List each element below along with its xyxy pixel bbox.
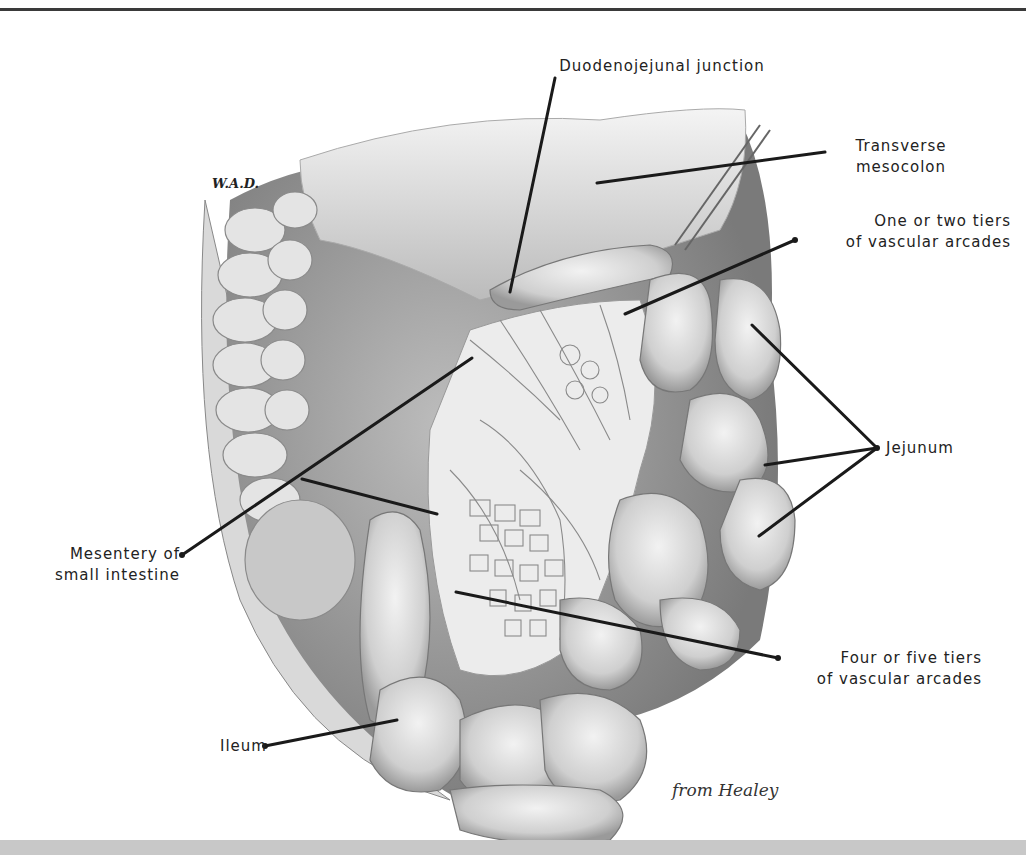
label-one-two-line1: One or two tiers bbox=[795, 211, 1011, 232]
label-mesentery-line1: Mesentery of bbox=[40, 544, 180, 565]
label-mesentery-of-small-intestine: Mesentery of small intestine bbox=[40, 544, 180, 586]
label-duodenojejunal-junction: Duodenojejunal junction bbox=[537, 56, 787, 77]
label-transverse-mesocolon: Transverse mesocolon bbox=[836, 136, 966, 178]
anatomical-illustration bbox=[0, 0, 1026, 855]
leader-jejunum-2 bbox=[765, 448, 877, 465]
label-one-two-line2: of vascular arcades bbox=[795, 232, 1011, 253]
label-four-five-line1: Four or five tiers bbox=[770, 648, 982, 669]
label-four-or-five-tiers: Four or five tiers of vascular arcades bbox=[770, 648, 982, 690]
label-transverse-line2: mesocolon bbox=[836, 157, 966, 178]
label-ileum: Ileum bbox=[220, 736, 267, 757]
label-mesentery-line2: small intestine bbox=[40, 565, 180, 586]
label-jejunum: Jejunum bbox=[886, 438, 954, 459]
artist-initials: W.A.D. bbox=[212, 176, 259, 191]
label-one-or-two-tiers: One or two tiers of vascular arcades bbox=[795, 211, 1011, 253]
bottom-band bbox=[0, 840, 1026, 855]
label-four-five-line2: of vascular arcades bbox=[770, 669, 982, 690]
label-transverse-line1: Transverse bbox=[836, 136, 966, 157]
figure-credit: from Healey bbox=[672, 780, 778, 800]
